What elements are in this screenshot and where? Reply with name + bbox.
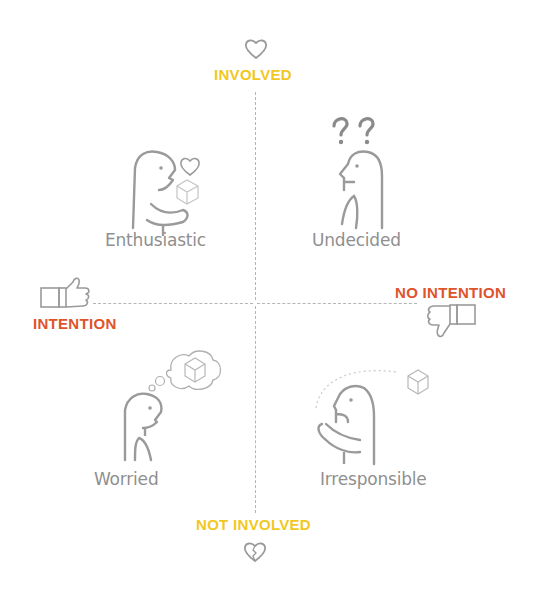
quadrant-label-undecided: Undecided: [312, 230, 401, 250]
heart-icon: [244, 38, 268, 60]
vertical-axis-lower: [255, 306, 256, 513]
vertical-axis-upper: [255, 92, 256, 300]
axis-label-intention: INTENTION: [33, 315, 117, 332]
person-with-question-marks-icon: [330, 112, 400, 232]
thumbs-down-icon: [426, 303, 478, 339]
horizontal-axis-right: [257, 303, 417, 304]
broken-heart-icon: [243, 541, 267, 563]
thumbs-up-icon: [40, 276, 92, 310]
quadrant-label-enthusiastic: Enthusiastic: [105, 230, 206, 250]
axis-label-involved: INVOLVED: [214, 66, 292, 83]
horizontal-axis-left: [93, 303, 253, 304]
person-holding-cube-with-heart-icon: [125, 148, 225, 236]
person-throwing-cube-icon: [312, 360, 436, 470]
axis-label-not-involved: NOT INVOLVED: [196, 516, 311, 533]
axis-label-no-intention: NO INTENTION: [395, 284, 506, 301]
quadrant-label-worried: Worried: [94, 469, 158, 489]
quadrant-label-irresponsible: Irresponsible: [320, 469, 427, 489]
person-thinking-of-cube-icon: [115, 348, 225, 464]
